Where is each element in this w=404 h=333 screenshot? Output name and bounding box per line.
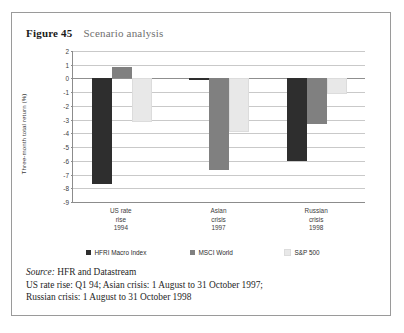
x-axis-label-line: 1998	[267, 224, 365, 233]
y-tick-label: 2	[65, 48, 69, 55]
figure-header: Figure 45Scenario analysis	[26, 23, 164, 41]
y-tick-label: 1	[65, 61, 69, 68]
source-label: Source:	[26, 267, 55, 277]
x-axis-label-line: 1994	[72, 224, 170, 233]
x-axis-label-line: Russian	[267, 207, 365, 216]
bar	[209, 78, 229, 170]
x-axis-label-line: US rate	[72, 207, 170, 216]
bar	[287, 78, 307, 160]
bar-group	[73, 51, 171, 202]
figure-caption: Scenario analysis	[84, 27, 164, 39]
figure-number: Figure 45	[26, 27, 73, 39]
y-tick-mark	[71, 202, 74, 203]
y-tick-label: -3	[63, 116, 69, 123]
y-tick-label: -2	[63, 102, 69, 109]
legend-swatch	[284, 249, 291, 256]
y-tick-label: 0	[65, 75, 69, 82]
y-tick-label: -7	[63, 171, 69, 178]
bar	[132, 78, 152, 122]
bar-group	[268, 51, 366, 202]
x-axis-label: Asiancrisis1997	[170, 207, 268, 233]
legend-label: HFRI Macro Index	[95, 249, 147, 256]
bars-layer	[73, 51, 365, 202]
bar	[307, 78, 327, 123]
x-axis-category-labels: US raterise1994Asiancrisis1997Russiancri…	[72, 207, 365, 241]
x-axis-label-line: crisis	[267, 216, 365, 225]
bar	[189, 78, 209, 79]
figure-frame: Figure 45Scenario analysis Three-month t…	[11, 12, 391, 316]
y-tick-label: -9	[63, 199, 69, 206]
legend-label: MSCI World	[199, 249, 233, 256]
source-line: Source: HFR and Datastream	[26, 266, 378, 279]
y-tick-label: -8	[63, 185, 69, 192]
note-line-2: Russian crisis: 1 August to 31 October 1…	[26, 291, 378, 304]
bar	[229, 78, 249, 132]
x-axis-label-line: rise	[72, 216, 170, 225]
bar-group	[171, 51, 269, 202]
x-axis-label: Russiancrisis1998	[267, 207, 365, 233]
footnotes: Source: HFR and Datastream US rate rise:…	[26, 266, 378, 304]
y-tick-label: -6	[63, 157, 69, 164]
source-text: HFR and Datastream	[55, 267, 137, 277]
note-line-1: US rate rise: Q1 94; Asian crisis: 1 Aug…	[26, 279, 378, 292]
x-axis-label-line: crisis	[170, 216, 268, 225]
bar	[112, 67, 132, 78]
legend-label: S&P 500	[295, 249, 320, 256]
legend-item[interactable]: MSCI World	[190, 249, 233, 256]
bar	[92, 78, 112, 184]
y-tick-label: -4	[63, 130, 69, 137]
gridline-neg9	[73, 202, 365, 203]
y-axis-title: Three-month total return (%)	[20, 79, 32, 189]
legend-swatch	[190, 250, 195, 255]
x-axis-label-line: 1997	[170, 224, 268, 233]
legend-item[interactable]: HFRI Macro Index	[86, 249, 146, 256]
bar	[327, 78, 347, 93]
bar-chart: Three-month total return (%) 210-1-2-3-4…	[26, 45, 378, 255]
y-tick-label: -5	[63, 144, 69, 151]
legend-swatch	[86, 250, 91, 255]
x-axis-label-line: Asian	[170, 207, 268, 216]
y-tick-label: -1	[63, 89, 69, 96]
legend-item[interactable]: S&P 500	[284, 249, 320, 256]
plot-area: 210-1-2-3-4-5-6-7-8-9	[72, 51, 365, 202]
x-axis-label: US raterise1994	[72, 207, 170, 233]
chart-legend: HFRI Macro IndexMSCI WorldS&P 500	[72, 249, 372, 261]
